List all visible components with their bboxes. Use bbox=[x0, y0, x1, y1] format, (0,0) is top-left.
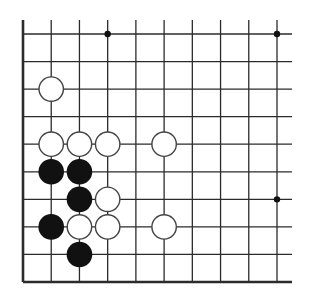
star-point-icon bbox=[274, 31, 280, 37]
star-point-icon bbox=[274, 196, 280, 202]
white-stone bbox=[39, 77, 63, 101]
go-board-diagram bbox=[0, 0, 309, 293]
white-stone bbox=[95, 132, 119, 156]
black-stone bbox=[38, 159, 64, 185]
black-stone bbox=[67, 159, 93, 185]
white-stone bbox=[152, 132, 176, 156]
go-board bbox=[0, 0, 309, 293]
white-stone bbox=[67, 215, 91, 239]
white-stone bbox=[95, 215, 119, 239]
black-stone bbox=[38, 214, 64, 240]
white-stone bbox=[152, 215, 176, 239]
white-stone bbox=[67, 132, 91, 156]
black-stone bbox=[67, 242, 93, 268]
star-point-icon bbox=[104, 31, 110, 37]
black-stone bbox=[67, 187, 93, 213]
white-stone bbox=[95, 187, 119, 211]
white-stone bbox=[39, 132, 63, 156]
